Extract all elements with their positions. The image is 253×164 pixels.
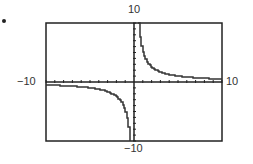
x-max-label: 10 bbox=[226, 76, 238, 87]
graph-plot bbox=[0, 0, 253, 164]
x-min-label: −10 bbox=[17, 76, 36, 87]
y-min-label: −10 bbox=[124, 143, 143, 154]
curve-branch-left bbox=[46, 85, 130, 141]
y-max-label: 10 bbox=[128, 4, 140, 15]
curve-branch-right bbox=[138, 23, 222, 79]
